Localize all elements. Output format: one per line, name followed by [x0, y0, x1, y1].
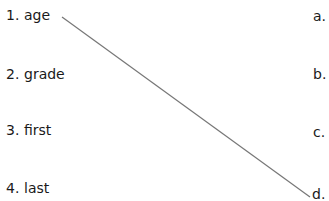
left-item-word: age	[24, 7, 50, 23]
connection-line-1-d	[62, 17, 310, 197]
left-item-word: grade	[24, 66, 65, 82]
left-item-1: 1.age	[6, 7, 50, 23]
right-item-c: c.	[313, 124, 325, 140]
left-item-number: 4.	[6, 180, 24, 196]
left-item-4: 4.last	[6, 180, 49, 196]
right-item-d: d.	[312, 186, 325, 201]
right-item-a: a.	[313, 8, 326, 24]
connection-lines	[0, 0, 329, 201]
left-item-2: 2.grade	[6, 66, 65, 82]
left-item-number: 3.	[6, 122, 24, 138]
right-item-b: b.	[313, 66, 326, 82]
left-item-number: 1.	[6, 7, 24, 23]
left-item-word: last	[24, 180, 49, 196]
left-item-number: 2.	[6, 66, 24, 82]
left-item-word: first	[24, 122, 51, 138]
left-item-3: 3.first	[6, 122, 51, 138]
